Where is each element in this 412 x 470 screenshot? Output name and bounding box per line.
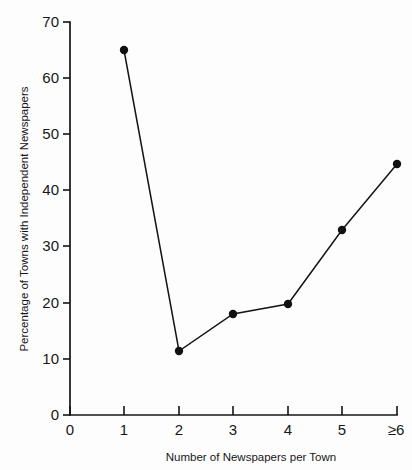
data-point	[120, 46, 128, 54]
x-tick-label: 1	[120, 421, 128, 438]
x-tick-label: 2	[175, 421, 183, 438]
x-tick-labels: 0 1 2 3 4 5 ≥6	[66, 421, 404, 438]
x-tick-label: 0	[66, 421, 74, 438]
x-tick-label: 3	[229, 421, 237, 438]
y-tick-label: 70	[42, 13, 59, 30]
y-tick-label: 30	[42, 237, 59, 254]
data-point	[175, 347, 183, 355]
chart-container: 70 60 50 40 30 20 10 0 0 1 2 3 4 5 ≥6 Nu…	[0, 0, 412, 470]
y-tick-label: 10	[42, 350, 59, 367]
x-tick-label: ≥6	[388, 421, 405, 438]
y-axis-title: Percentage of Towns with Independent New…	[18, 86, 30, 351]
line-chart: 70 60 50 40 30 20 10 0 0 1 2 3 4 5 ≥6 Nu…	[0, 0, 412, 470]
y-tick-label: 0	[51, 406, 59, 423]
data-point	[229, 310, 237, 318]
x-tick-label: 4	[284, 421, 292, 438]
data-point	[284, 300, 292, 308]
x-axis-title: Number of Newspapers per Town	[166, 451, 336, 463]
data-point	[338, 226, 346, 234]
y-axis-ticks	[63, 22, 70, 415]
data-point	[393, 160, 401, 168]
y-tick-label: 50	[42, 125, 59, 142]
y-tick-label: 40	[42, 181, 59, 198]
x-tick-label: 5	[338, 421, 346, 438]
y-tick-label: 20	[42, 294, 59, 311]
data-series-line	[124, 50, 397, 351]
y-tick-labels: 70 60 50 40 30 20 10 0	[42, 13, 59, 423]
x-axis-ticks	[70, 406, 397, 415]
y-tick-label: 60	[42, 69, 59, 86]
